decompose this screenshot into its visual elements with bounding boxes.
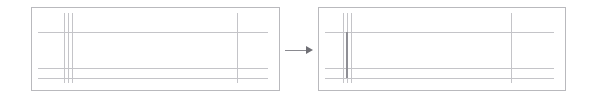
after-vline-cluster-a xyxy=(343,13,344,83)
after-panel-plot-area xyxy=(318,7,566,91)
after-vline-right xyxy=(511,13,512,83)
flow-arrow-shaft xyxy=(285,50,307,51)
before-panel-plot-area xyxy=(31,7,280,91)
after-vline-emphasis xyxy=(346,32,348,78)
after-hline-upper xyxy=(325,32,554,33)
flow-arrow-head-icon xyxy=(306,46,313,54)
before-vline-right xyxy=(237,13,238,83)
flow-arrow xyxy=(285,44,314,56)
before-vline-cluster-a xyxy=(64,13,65,83)
before-vline-cluster-b xyxy=(68,13,69,83)
before-vline-cluster-c xyxy=(72,13,73,83)
after-panel xyxy=(318,7,566,91)
after-hline-lower xyxy=(325,78,554,79)
figure-root xyxy=(0,0,591,100)
after-hline-middle xyxy=(325,68,554,69)
before-panel xyxy=(31,7,280,91)
after-vline-cluster-c xyxy=(351,13,352,83)
